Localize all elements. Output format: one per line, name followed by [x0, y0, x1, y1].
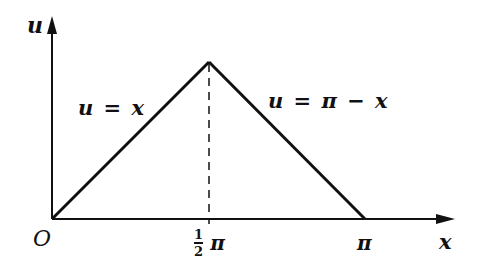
left-segment-label: u = x [78, 97, 144, 118]
x-axis-arrow-icon [436, 214, 455, 224]
fraction-denominator: 2 [194, 245, 203, 258]
u-axis-arrow-icon [47, 16, 57, 34]
half-fraction: 1 2 [194, 228, 203, 258]
fraction-numerator: 1 [194, 228, 203, 241]
half-pi-symbol: π [210, 231, 225, 255]
segment-u-equals-pi-minus-x [209, 62, 365, 219]
graph-canvas [0, 0, 479, 276]
x-axis-label: x [439, 231, 452, 252]
segment-u-equals-x [52, 62, 209, 219]
origin-label: O [33, 228, 51, 250]
half-pi-tick-label: 1 2 π [194, 228, 225, 258]
u-axis-label: u [27, 14, 43, 36]
right-segment-label: u = π − x [268, 90, 388, 111]
pi-tick-label: π [357, 233, 372, 253]
